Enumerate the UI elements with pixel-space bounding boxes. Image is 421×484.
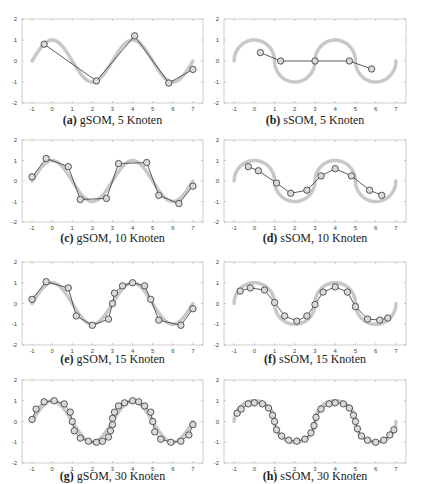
y-tick-label: -2 (214, 460, 220, 466)
subplot-caption-text: sSOM, 30 Knoten (280, 469, 367, 483)
som-node (269, 412, 275, 418)
y-tick-label: 1 (216, 398, 220, 404)
y-tick-label: 2 (216, 377, 220, 383)
som-node (286, 437, 292, 443)
som-node (391, 427, 397, 433)
subplot-label: (h) (263, 469, 278, 483)
som-node (326, 401, 332, 407)
som-node (311, 422, 317, 428)
som-node (350, 412, 356, 418)
som-node (340, 401, 346, 407)
y-tick-label: -1 (214, 439, 220, 445)
som-node (245, 401, 251, 407)
som-node (318, 406, 324, 412)
som-node (238, 406, 244, 412)
som-node (352, 418, 358, 424)
som-node (308, 430, 314, 436)
som-node (294, 438, 300, 444)
som-node (364, 437, 370, 443)
som-node (271, 418, 277, 424)
som-node (313, 414, 319, 420)
som-node (372, 439, 378, 445)
som-node (273, 427, 279, 433)
som-node (354, 426, 360, 432)
som-node (265, 405, 271, 411)
y-tick-label: 0 (216, 419, 220, 425)
som-node (278, 433, 284, 439)
som-node (358, 433, 364, 439)
som-node (346, 405, 352, 411)
som-node (381, 437, 387, 443)
som-node (332, 400, 338, 406)
som-node (259, 401, 265, 407)
som-node (302, 436, 308, 442)
som-node (251, 400, 257, 406)
subplot-caption: (h) sSOM, 30 Knoten (215, 469, 415, 484)
